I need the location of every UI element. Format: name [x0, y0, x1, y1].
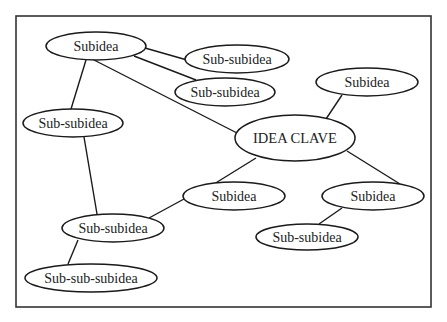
connector-key-sub4 [347, 151, 400, 184]
connector-ss4-sub3 [149, 199, 184, 218]
node-label: Sub-subidea [78, 221, 148, 236]
node-ss4: Sub-subidea [62, 214, 164, 242]
node-label: Sub-subidea [38, 116, 108, 131]
connector-sub4-ss5 [319, 208, 342, 224]
connector-ss4-sss1 [68, 240, 78, 264]
connector-sub1-ss3 [71, 60, 86, 109]
node-sub1: Subidea [46, 32, 146, 60]
connector-key-sub2 [326, 95, 342, 119]
node-ss2: Sub-subidea [175, 78, 275, 106]
node-ss5: Sub-subidea [256, 224, 358, 250]
node-label: Subidea [344, 75, 390, 90]
node-label: Subidea [73, 39, 119, 54]
node-sub2: Subidea [316, 68, 418, 96]
node-label: Subidea [350, 189, 396, 204]
node-label: Sub-subidea [272, 230, 342, 245]
mind-map-diagram: IDEA CLAVESubideaSubideaSubideaSubideaSu… [0, 0, 447, 322]
node-ss3: Sub-subidea [23, 109, 123, 137]
node-label: Sub-sub-subidea [44, 271, 138, 286]
node-ss1: Sub-subidea [185, 45, 289, 73]
node-sub3: Subidea [183, 182, 285, 210]
node-label: IDEA CLAVE [253, 130, 337, 146]
connector-sub1-ss1 [145, 48, 187, 60]
node-sss1: Sub-sub-subidea [25, 264, 157, 292]
connector-key-sub3 [214, 158, 256, 184]
connector-ss3-ss4 [84, 137, 97, 214]
node-sub4: Subidea [322, 182, 424, 210]
node-label: Sub-subidea [202, 52, 272, 67]
node-label: Subidea [211, 189, 257, 204]
node-key: IDEA CLAVE [235, 115, 355, 161]
node-label: Sub-subidea [190, 85, 260, 100]
